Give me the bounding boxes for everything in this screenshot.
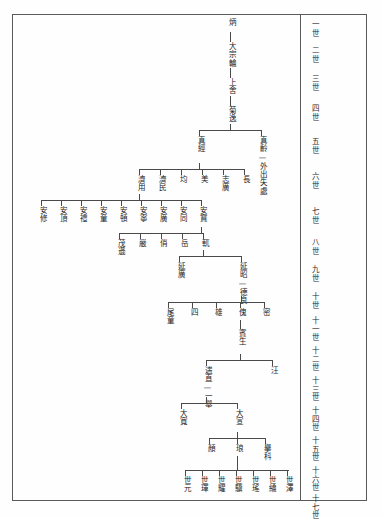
node-yanzhao: 延昭—德良 [238,262,246,305]
generation-label-1: 一世 [311,20,319,37]
node-chang: 長 [241,175,249,183]
generation-label-column: 一世 二世 三世 四世 五世 六世 七世 八世 九世 十世 十一世 十二世 十三… [303,16,363,499]
generation-label-8: 八世 [311,238,319,255]
node-antong: 安童 [98,206,106,223]
node-jimin: 濟民 [157,175,165,192]
node-si: 四 [189,308,197,316]
node-mi: 密 [261,308,269,316]
node-yue2: 軏 [200,239,208,247]
generation-label-15: 十五世 [311,436,319,462]
node-yan: 嚴 [137,239,145,247]
generation-label-10: 十世 [311,292,319,309]
generation-label-9: 九世 [311,265,319,282]
connector-gen6-bus [139,169,244,170]
node-zhiguang: 志廣 [220,175,228,192]
connector-root-1 [230,32,231,42]
connector-gen14-bus [181,403,237,404]
node-jiyong: 濟用 [136,175,144,192]
node-qiao: 俏 [158,239,166,247]
node-anli: 安禮 [78,206,86,223]
connector-root-3 [230,96,231,106]
node-yan2: 顏 [206,444,214,452]
node-anxiu: 安修 [38,206,46,223]
node-mei: 美 [199,175,207,183]
node-dazonglun: 大宗輪 [227,42,235,67]
node-binsheng: 賓生 [237,329,245,346]
node-zhenjing: 真經 [196,136,204,153]
node-bing: 炳 [227,18,235,26]
connector-gen5-bus [199,130,261,131]
node-dakuan: 大寬 [178,409,186,426]
node-shiyao: 世耀 [216,476,224,493]
generation-label-4: 四世 [311,104,319,121]
node-shangshe: 上舍 [227,78,235,95]
node-daxuan: 大宣 [234,409,242,426]
generation-label-5: 五世 [311,137,319,154]
node-jun: 均 [178,175,186,183]
generation-label-13: 十三世 [311,376,319,402]
node-shihun: 世琿 [199,476,207,493]
node-xiong: 雄 [213,308,221,316]
connector-gen9-bus [179,256,241,257]
connector-kui-down [240,320,241,329]
node-juyi: 菊逸 [227,106,235,123]
generation-label-3: 三世 [311,74,319,91]
node-lang: 琅 [234,444,242,452]
generation-label-6: 六世 [311,172,319,189]
node-kui: 傀 [237,308,245,316]
generation-label-2: 二世 [311,46,319,63]
generation-label-16: 十六世 [311,466,319,492]
node-weitong: 尾童 [165,308,173,325]
generation-label-12: 十二世 [311,346,319,372]
node-anning: 安寧 [138,206,146,223]
node-zhenling: 真齡—外出失處 [258,136,266,195]
generation-label-7: 七世 [311,207,319,224]
node-anguang: 安廣 [158,206,166,223]
node-shiji: 世驥 [233,476,241,493]
node-andun: 安頓 [118,206,126,223]
generation-label-11: 十一世 [311,316,319,342]
node-anding: 安頂 [58,206,66,223]
node-anbao: 安寶 [198,206,206,223]
node-shiyuan: 世元 [182,476,190,493]
generation-column-divider [300,14,301,501]
connector-gen17-bus [185,470,289,471]
node-shilun: 世綸 [267,476,275,493]
connector-root-2 [230,68,231,78]
generation-label-14: 十四世 [311,406,319,432]
generation-label-17: 十七世 [311,494,319,520]
node-wang: 汪 [269,366,277,374]
connector-lang-down [237,456,238,470]
node-juke: 擧科 [262,444,270,461]
node-shiyao2: 世瑤 [250,476,258,493]
node-shize: 世澤 [284,476,292,493]
node-maoxun: 茂遜 [116,239,124,256]
node-yanguang: 延廣 [176,262,184,279]
node-antong2: 安同 [178,206,186,223]
connector-gen13-bus [206,360,272,361]
node-yue: 岳 [179,239,187,247]
